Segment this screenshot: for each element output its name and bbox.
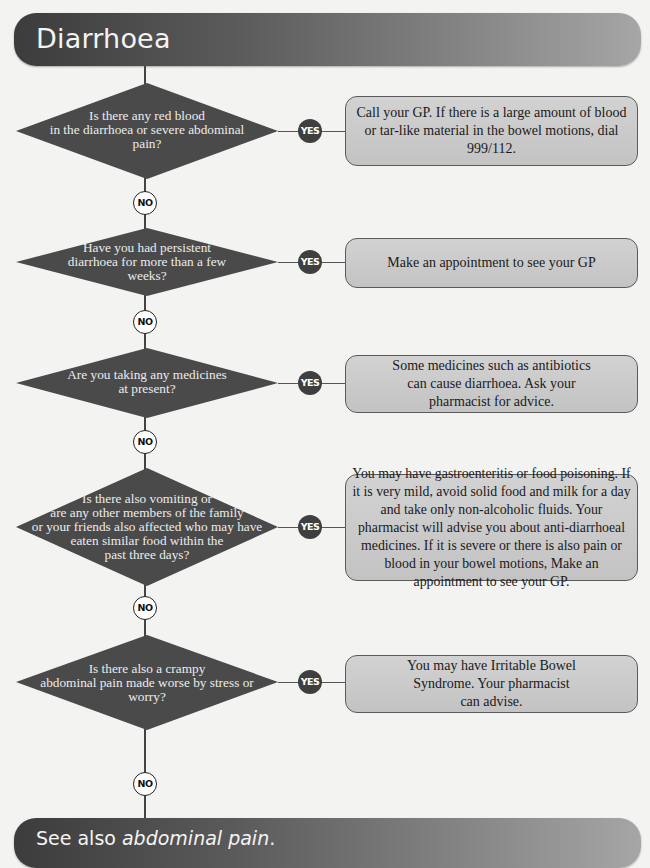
question-diamond-2: Have you had persistent diarrhoea for mo… bbox=[16, 228, 278, 296]
question-text: Is there also a crampy abdominal pain ma… bbox=[16, 662, 278, 704]
see-also-suffix: . bbox=[269, 827, 275, 849]
answer-box-5: You may have Irritable Bowel Syndrome. Y… bbox=[345, 655, 638, 713]
no-badge: NO bbox=[133, 310, 157, 334]
answer-box-2: Make an appointment to see your GP bbox=[345, 238, 638, 288]
question-line: at present? bbox=[16, 382, 278, 396]
question-line: are any other members of the family bbox=[16, 506, 278, 520]
question-line: worry? bbox=[16, 690, 278, 704]
question-text: Is there also vomiting or are any other … bbox=[16, 492, 278, 562]
yes-badge: YES bbox=[298, 670, 322, 694]
question-text: Is there any red blood in the diarrhoea … bbox=[16, 109, 278, 151]
question-line: in the diarrhoea or severe abdominal bbox=[16, 123, 278, 137]
question-diamond-1: Is there any red blood in the diarrhoea … bbox=[16, 83, 278, 179]
no-badge: NO bbox=[133, 430, 157, 454]
yes-badge: YES bbox=[298, 371, 322, 395]
page-title: Diarrhoea bbox=[36, 23, 171, 54]
no-badge: NO bbox=[133, 772, 157, 796]
question-line: eaten similar food within the bbox=[16, 534, 278, 548]
question-line: or your friends also affected who may ha… bbox=[16, 520, 278, 534]
yes-badge: YES bbox=[298, 119, 322, 143]
answer-box-4: You may have gastroenteritis or food poi… bbox=[345, 474, 638, 581]
question-line: pain? bbox=[16, 137, 278, 151]
footer-bar: See also abdominal pain. bbox=[14, 818, 641, 868]
question-text: Have you had persistent diarrhoea for mo… bbox=[16, 241, 278, 283]
question-line: abdominal pain made worse by stress or bbox=[16, 676, 278, 690]
question-diamond-5: Is there also a crampy abdominal pain ma… bbox=[16, 635, 278, 730]
yes-badge: YES bbox=[298, 515, 322, 539]
yes-badge: YES bbox=[298, 250, 322, 274]
question-line: Is there any red blood bbox=[16, 109, 278, 123]
see-also-prefix: See also bbox=[36, 827, 122, 849]
question-line: diarrhoea for more than a few bbox=[16, 255, 278, 269]
see-also-text: See also abdominal pain. bbox=[36, 827, 275, 849]
header-bar: Diarrhoea bbox=[14, 13, 641, 66]
no-badge: NO bbox=[133, 191, 157, 215]
no-badge: NO bbox=[133, 596, 157, 620]
question-line: Are you taking any medicines bbox=[16, 368, 278, 382]
question-line: Have you had persistent bbox=[16, 241, 278, 255]
question-line: past three days? bbox=[16, 548, 278, 562]
question-text: Are you taking any medicines at present? bbox=[16, 368, 278, 396]
question-diamond-4: Is there also vomiting or are any other … bbox=[16, 468, 278, 586]
answer-box-3: Some medicines such as antibiotics can c… bbox=[345, 355, 638, 413]
answer-box-1: Call your GP. If there is a large amount… bbox=[345, 96, 638, 166]
question-line: weeks? bbox=[16, 269, 278, 283]
see-also-link[interactable]: abdominal pain bbox=[122, 827, 269, 849]
question-line: Is there also a crampy bbox=[16, 662, 278, 676]
question-line: Is there also vomiting or bbox=[16, 492, 278, 506]
question-diamond-3: Are you taking any medicines at present? bbox=[16, 348, 278, 418]
